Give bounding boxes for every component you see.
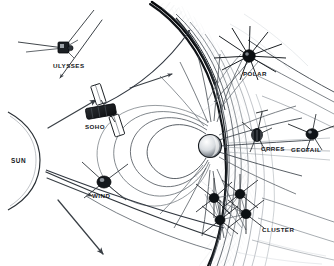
earth [199, 135, 222, 158]
cluster-label: CLUSTER [262, 226, 294, 233]
polar-label: POLAR [243, 70, 267, 77]
geotail-label: GEOTAIL [291, 146, 321, 153]
soho-label: SOHO [85, 123, 105, 130]
magnetosphere-diagram: SUN [0, 0, 334, 266]
ulysses-label: ULYSSES [53, 62, 84, 69]
crres-label: CRRES [261, 145, 285, 152]
wind-label: WIND [92, 192, 110, 199]
sun-label: SUN [11, 157, 26, 164]
